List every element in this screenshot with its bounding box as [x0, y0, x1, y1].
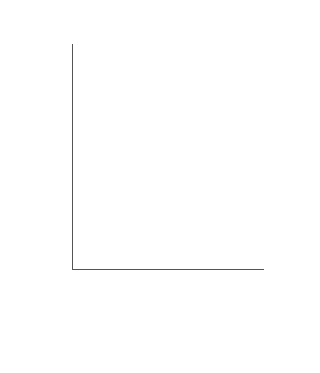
x-axis-line	[72, 269, 264, 270]
y-axis-line	[72, 44, 73, 270]
